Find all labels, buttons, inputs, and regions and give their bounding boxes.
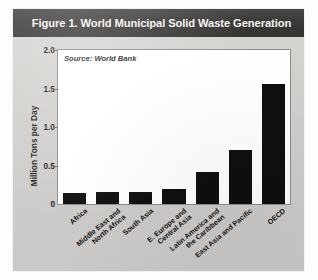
figure-title: Figure 1. World Municipal Solid Waste Ge… [13,17,304,29]
scanned-page: Figure 1. World Municipal Solid Waste Ge… [0,0,318,280]
figure-title-bar: Figure 1. World Municipal Solid Waste Ge… [13,9,304,37]
y-tick-mark [54,127,58,128]
bar [96,192,119,204]
x-axis-category-labels: AfricaMiddle East andNorth AfricaSouth A… [57,207,291,271]
bar [262,84,285,204]
bar [129,192,152,204]
bar [229,150,252,204]
y-tick-mark [54,50,58,51]
y-tick-mark [54,89,58,90]
plot-inner: Source: World Bank [58,50,290,204]
plot-box: Source: World Bank [57,49,291,205]
y-tick-label: 0 [50,199,55,209]
chart-area: Million Tons per Day 00.51.01.52.0 Sourc… [13,37,304,271]
y-tick-mark [54,166,58,167]
bar [196,172,219,204]
figure-panel: Figure 1. World Municipal Solid Waste Ge… [13,9,304,271]
y-axis-tick-labels: 00.51.01.52.0 [33,37,55,205]
source-note: Source: World Bank [64,54,136,63]
bar [162,189,185,204]
bar [63,193,86,204]
